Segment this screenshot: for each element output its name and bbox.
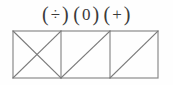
square-figure [0, 26, 173, 85]
symbol-row: (÷) (0) (+) [0, 0, 173, 28]
close-paren-2: ) [92, 4, 99, 24]
close-paren-3: ) [124, 4, 131, 24]
symbol-group-zero: (0) [71, 4, 101, 24]
figure-panel: (÷) (0) (+) [0, 0, 173, 85]
diagonal-bl-tr-square-3 [110, 31, 158, 78]
open-paren-1: ( [42, 4, 49, 24]
diagonal-bl-tr-square-2 [61, 31, 110, 78]
diagonal-lines [13, 31, 158, 78]
symbol-group-plus: (+) [102, 4, 133, 24]
digit-zero: 0 [80, 6, 92, 23]
square-grid-svg [0, 26, 173, 85]
division-sign-icon: ÷ [49, 6, 62, 23]
open-paren-2: ( [73, 4, 80, 24]
open-paren-3: ( [104, 4, 111, 24]
plus-sign-icon: + [111, 6, 124, 23]
symbol-group-division: (÷) [40, 4, 71, 24]
close-paren-1: ) [62, 4, 69, 24]
